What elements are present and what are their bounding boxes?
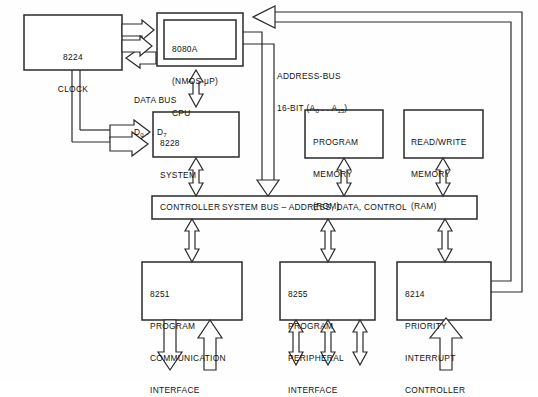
usart-label: 8251 PROGRAM COMMUNICATION INTERFACE [150,268,226,397]
data-bus-label: DATA BUS D0 . . D7 [134,74,177,162]
interrupt-to-cpu-arrowhead [253,6,275,28]
address-bus-label: ADDRESS-BUS 16-BIT (A0 . . A15) [277,50,347,138]
address-bus-arrow-into-bus [257,180,279,196]
ppi-io-arrow-3 [353,320,367,365]
ppi-label: 8255 PROGRAM PERIPHERAL INTERFACE [288,268,344,397]
read-write-memory-label: READ/WRITE MEMORY (RAM) [411,116,467,233]
clock-to-cpu-arrow-upper [122,20,154,40]
address-line-a [243,32,262,186]
system-bus-label: SYSTEM BUS – ADDRESS, DATA, CONTROL [152,202,477,213]
clock-label: 8224 CLOCK [24,31,122,116]
address-line-b [243,44,274,186]
interrupt-controller-label: 8214 PRIORITY INTERRUPT CONTROLLER [405,268,465,397]
data-bus-range: D0 . . D7 [134,127,177,141]
address-bus-range: 16-BIT (A0 . . A15) [277,103,347,117]
